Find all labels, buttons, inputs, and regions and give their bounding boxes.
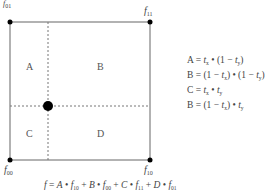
region-c-label: C	[26, 128, 33, 139]
equation-d: B = (1 − tx) • ty	[187, 100, 265, 115]
corner-label-f00: f00	[4, 165, 13, 176]
equation-a: A = tx • (1 − ty)	[187, 55, 265, 70]
unit-square	[10, 22, 150, 160]
equation-c: C = tx • ty	[187, 85, 265, 100]
weight-equations: A = tx • (1 − ty) B = (1 − tx) • (1 − ty…	[187, 55, 265, 115]
corner-dot-f00	[8, 158, 13, 163]
region-b-label: B	[97, 61, 104, 72]
bilinear-formula: f = A • f10 + B • f00 + C • f11 + D • f0…	[44, 180, 177, 191]
corner-label-f11: f11	[144, 6, 153, 17]
corner-dot-f10	[148, 158, 153, 163]
region-a-label: A	[26, 61, 33, 72]
corner-dot-f11	[148, 20, 153, 25]
corner-label-f01: f01	[3, 0, 11, 9]
region-d-label: D	[97, 128, 104, 139]
sample-point-dot	[43, 101, 53, 111]
equation-b: B = (1 − tx) • (1 − ty)	[187, 70, 265, 85]
corner-label-f10: f10	[144, 165, 153, 176]
corner-dot-f01	[8, 20, 13, 25]
